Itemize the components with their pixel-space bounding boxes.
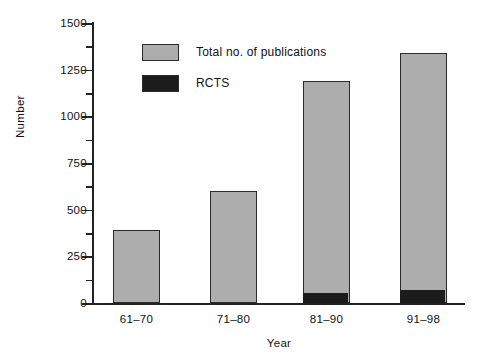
legend-label: Total no. of publications — [196, 45, 326, 59]
legend-swatch — [142, 75, 179, 92]
x-tick-label: 81–90 — [310, 313, 343, 325]
bar-total: 81–90 — [303, 81, 350, 303]
y-tick-label: 500 — [67, 204, 87, 216]
legend-item: Total no. of publications — [142, 43, 326, 61]
bar-total: 91–98 — [400, 53, 447, 303]
x-tick-label: 61–70 — [120, 313, 153, 325]
legend-item: RCTS — [142, 74, 326, 92]
y-tick-mark — [86, 46, 93, 48]
chart-legend: Total no. of publicationsRCTS — [142, 43, 326, 105]
x-tick-label: 91–98 — [407, 313, 440, 325]
y-tick-mark — [86, 186, 93, 188]
legend-swatch — [142, 44, 179, 61]
y-axis-title: Number — [14, 124, 26, 138]
y-tick-label: 0 — [80, 297, 87, 309]
y-tick-label: 750 — [67, 157, 87, 169]
bar-total: 61–70 — [113, 230, 160, 303]
y-tick-label: 1000 — [60, 110, 87, 122]
bar-segment-rcts — [400, 290, 445, 303]
y-tick-label: 1250 — [60, 64, 87, 76]
x-tick-label: 71–80 — [217, 313, 250, 325]
y-tick-label: 1500 — [60, 17, 87, 29]
y-tick-label: 250 — [67, 250, 87, 262]
y-tick-mark — [86, 280, 93, 282]
bar-segment-rcts — [303, 293, 348, 302]
bar-chart: 0250500750100012501500 61–7071–8081–9091… — [0, 0, 497, 364]
y-tick-mark — [86, 93, 93, 95]
bar-total: 71–80 — [210, 191, 257, 303]
x-axis-line — [92, 303, 465, 305]
x-axis-title: Year — [93, 337, 465, 349]
y-tick-mark — [86, 140, 93, 142]
legend-label: RCTS — [196, 76, 229, 90]
y-tick-mark — [86, 233, 93, 235]
